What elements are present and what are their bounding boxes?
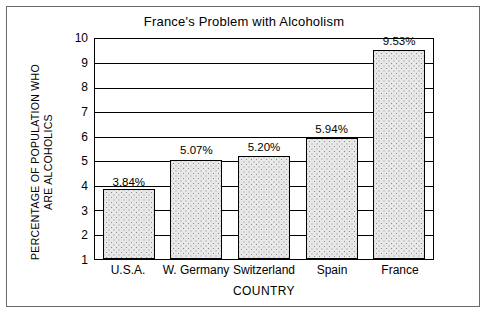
x-tick-switzerland: Switzerland <box>230 263 298 281</box>
x-axis-title: COUNTRY <box>94 284 434 298</box>
bar-w-germany <box>170 160 222 259</box>
bar-value-label-spain: 5.94% <box>292 123 372 135</box>
y-tick-3: 3 <box>62 204 88 218</box>
bar-group-w-germany: 5.07% <box>170 39 222 259</box>
y-tick-7: 7 <box>62 105 88 119</box>
bar-value-label-switzerland: 5.20% <box>224 141 304 153</box>
x-axis-tick-labels: U.S.A. W. Germany Switzerland Spain Fran… <box>94 263 434 281</box>
chart-container: France's Problem with Alcoholism 1 2 3 4… <box>0 0 488 315</box>
y-axis-tick-labels: 1 2 3 4 5 6 7 8 9 10 <box>62 38 88 260</box>
bar-group-switzerland: 5.20% <box>238 39 290 259</box>
bar-spain <box>306 138 358 259</box>
bar-group-france: 9.53% <box>373 39 425 259</box>
bar-series: 3.84% 5.07% 5.20% 5.94% 9.53% <box>95 39 433 259</box>
y-tick-8: 8 <box>62 80 88 94</box>
y-tick-9: 9 <box>62 56 88 70</box>
y-axis-title-line2: ARE ALCOHOLICS <box>42 52 55 272</box>
plot-area: 3.84% 5.07% 5.20% 5.94% 9.53% <box>94 38 434 260</box>
bar-france <box>373 50 425 259</box>
y-axis-title: PERCENTAGE OF POPULATION WHO ARE ALCOHOL… <box>29 52 55 272</box>
bar-usa <box>103 189 155 259</box>
y-tick-5: 5 <box>62 154 88 168</box>
y-tick-10: 10 <box>62 31 88 45</box>
bar-value-label-france: 9.53% <box>359 35 439 47</box>
bar-value-label-usa: 3.84% <box>89 176 169 188</box>
bar-group-usa: 3.84% <box>103 39 155 259</box>
y-tick-6: 6 <box>62 130 88 144</box>
x-tick-spain: Spain <box>298 263 366 281</box>
bar-group-spain: 5.94% <box>306 39 358 259</box>
y-tick-2: 2 <box>62 228 88 242</box>
x-tick-w-germany: W. Germany <box>162 263 230 281</box>
chart-title: France's Problem with Alcoholism <box>0 14 488 29</box>
x-tick-france: France <box>366 263 434 281</box>
y-tick-1: 1 <box>62 253 88 267</box>
x-tick-usa: U.S.A. <box>94 263 162 281</box>
bar-switzerland <box>238 156 290 259</box>
y-tick-4: 4 <box>62 179 88 193</box>
y-axis-title-line1: PERCENTAGE OF POPULATION WHO <box>29 52 42 272</box>
